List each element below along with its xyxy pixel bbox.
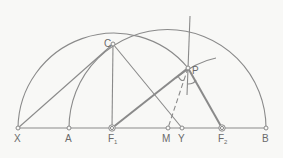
- point-p: [186, 66, 190, 70]
- point-a: [67, 126, 71, 130]
- line-xc: [18, 44, 113, 128]
- point-f2-inner: [220, 126, 223, 129]
- angle-arc-left: [178, 76, 184, 81]
- line-normal: [187, 16, 190, 95]
- label-c: C: [104, 38, 111, 49]
- label-p: P: [192, 65, 199, 76]
- point-b: [264, 126, 268, 130]
- ellipse-construction-diagram: X A F1 M Y F2 B C P: [0, 0, 283, 158]
- line-pf2: [188, 68, 222, 128]
- label-x: X: [14, 133, 21, 144]
- label-a: A: [65, 133, 72, 144]
- arc-right: [69, 29, 266, 128]
- label-f1: F1: [108, 133, 118, 145]
- label-f2: F2: [218, 133, 228, 145]
- label-b: B: [262, 133, 269, 144]
- point-m: [166, 126, 170, 130]
- label-y: Y: [178, 133, 185, 144]
- point-c: [111, 42, 115, 46]
- arc-left: [18, 33, 188, 128]
- point-x: [16, 126, 20, 130]
- label-m: M: [162, 133, 170, 144]
- line-f1p: [112, 68, 188, 128]
- line-cf1: [112, 44, 113, 128]
- point-y: [180, 126, 184, 130]
- point-f1-inner: [110, 126, 113, 129]
